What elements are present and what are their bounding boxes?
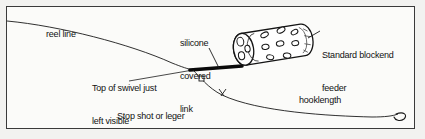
hook-curve [394, 113, 406, 121]
label-stop-shot: Stop shot or leger stop [117, 89, 184, 139]
blockend-feeder [231, 22, 315, 67]
label-standard-line-2: feeder [322, 83, 394, 94]
label-standard-line-1: Standard blockend [322, 50, 394, 61]
diagram-page: reel line silicone covered link Top of s… [0, 0, 425, 139]
label-silicone-line-1: silicone [180, 38, 211, 49]
label-silicone-line-3: link [180, 104, 211, 115]
label-silicone-covered-link: silicone covered link [180, 16, 211, 137]
label-reel-line: reel line [46, 29, 76, 40]
label-silicone-line-2: covered [180, 71, 211, 82]
label-hooklength: hooklength [299, 95, 341, 106]
label-stop-shot-line-1: Stop shot or leger [117, 111, 184, 122]
